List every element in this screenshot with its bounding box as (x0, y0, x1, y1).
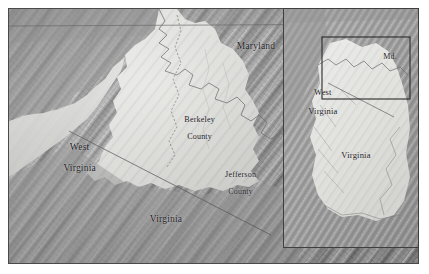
inset-locator-map[interactable]: West Virginia Md. Virginia (283, 8, 419, 248)
inset-vector-overlay (284, 9, 418, 247)
map-figure: Maryland Berkeley County Jefferson Count… (0, 0, 429, 274)
